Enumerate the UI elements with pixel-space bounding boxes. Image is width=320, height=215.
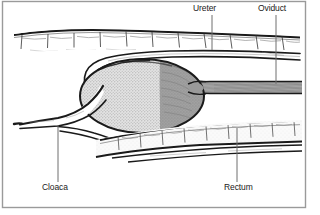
body-wall-top: [14, 29, 300, 57]
label-cloaca: Cloaca: [42, 182, 68, 192]
diagram-canvas: Ureter Oviduct Cloaca Rectum: [0, 0, 320, 215]
label-ureter: Ureter: [193, 3, 216, 13]
label-oviduct: Oviduct: [258, 3, 287, 13]
label-rectum: Rectum: [224, 182, 253, 192]
anatomy-diagram-figure: Ureter Oviduct Cloaca Rectum: [0, 0, 320, 215]
